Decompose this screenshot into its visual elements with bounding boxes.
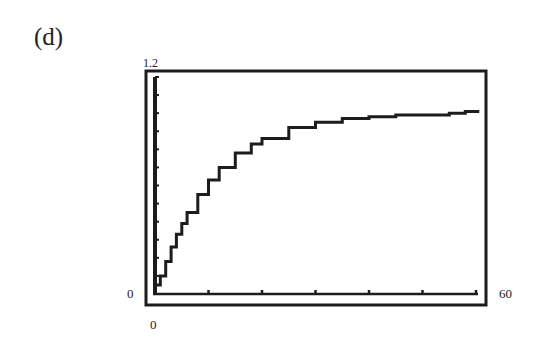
data-curve: [155, 111, 479, 285]
axis-ticks: [155, 77, 476, 294]
axes: [153, 77, 478, 294]
plot-frame: [146, 71, 486, 305]
plot-area: [0, 0, 546, 354]
